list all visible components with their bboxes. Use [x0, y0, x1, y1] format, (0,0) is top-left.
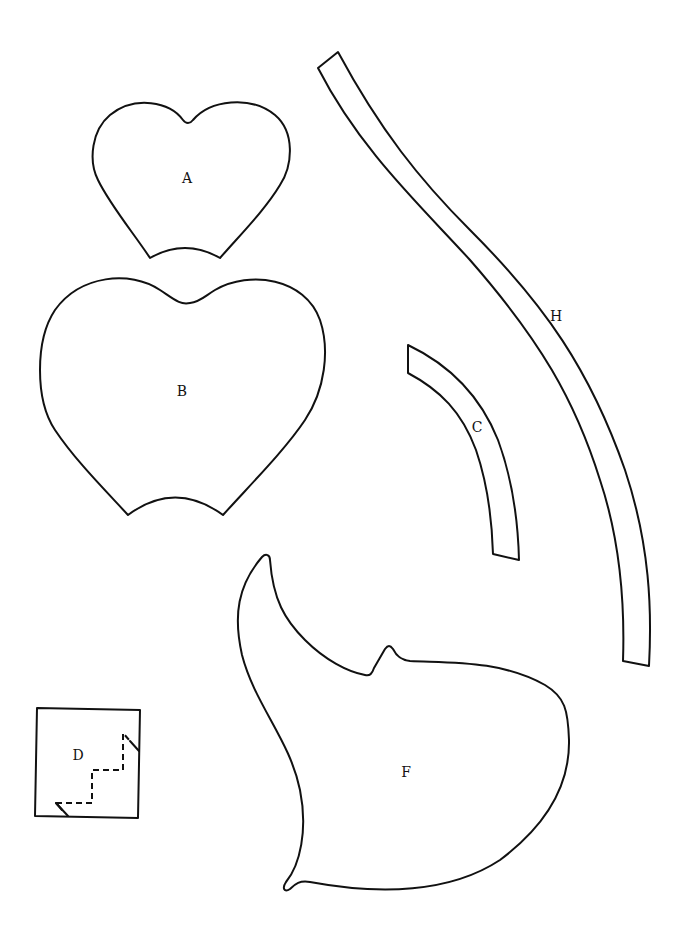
piece-d: D	[35, 708, 140, 818]
piece-c-label: C	[472, 419, 483, 435]
piece-f-label: F	[401, 764, 411, 780]
piece-b-label: B	[177, 383, 187, 399]
piece-h: H	[318, 52, 650, 666]
piece-d-outline	[35, 708, 140, 818]
piece-a: A	[93, 102, 290, 258]
piece-c-outline	[408, 345, 519, 560]
pattern-sheet: A B H C D F	[0, 0, 691, 945]
piece-f-outline	[238, 555, 569, 891]
piece-b: B	[40, 278, 325, 515]
piece-a-label: A	[181, 170, 193, 186]
piece-h-outline	[318, 52, 650, 666]
piece-f: F	[238, 555, 569, 891]
piece-d-label: D	[72, 747, 83, 763]
piece-d-fold-mark-top	[130, 741, 139, 751]
piece-h-label: H	[550, 308, 562, 324]
piece-c: C	[408, 345, 519, 560]
piece-d-fold-mark-bottom-start	[56, 803, 62, 810]
piece-d-fold-line	[56, 733, 130, 803]
